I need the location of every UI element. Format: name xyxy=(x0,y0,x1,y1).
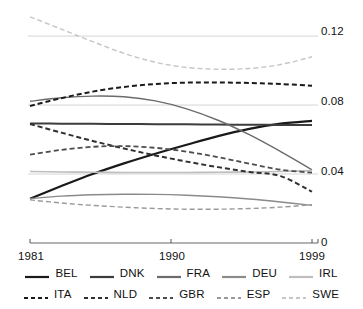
chart-legend: BELDNKFRADEUIRL ITANLDGBRESPSWE xyxy=(0,262,363,304)
data-series-group xyxy=(30,17,312,210)
legend-row-solid: BELDNKFRADEUIRL xyxy=(0,262,363,283)
legend-label: NLD xyxy=(114,288,138,300)
legend-label: ITA xyxy=(54,288,72,300)
x-tick-label-1999: 1999 xyxy=(291,250,333,262)
y-tick-label-0.04: 0.04 xyxy=(321,165,344,177)
legend-label: BEL xyxy=(55,267,77,279)
legend-swatch-deu-icon xyxy=(222,268,246,278)
legend-label: SWE xyxy=(312,288,339,300)
legend-swatch-esp-icon xyxy=(217,289,241,299)
legend-label: IRL xyxy=(319,267,338,279)
y-tick-label-0: 0 xyxy=(321,236,328,248)
legend-swatch-swe-icon xyxy=(282,289,306,299)
legend-item-gbr[interactable]: GBR xyxy=(149,288,205,300)
x-tick-label-1990: 1990 xyxy=(151,250,193,262)
legend-item-fra[interactable]: FRA xyxy=(157,267,211,279)
legend-item-swe[interactable]: SWE xyxy=(282,288,339,300)
y-tick-label-0.12: 0.12 xyxy=(321,25,344,37)
legend-label: FRA xyxy=(187,267,211,279)
axis-lines xyxy=(30,239,318,243)
x-tick-label-1981: 1981 xyxy=(10,250,52,262)
legend-swatch-nld-icon xyxy=(84,289,108,299)
series-line-BEL xyxy=(30,121,312,199)
legend-label: ESP xyxy=(247,288,271,300)
line-chart: 0.12 0.08 0.04 0 1981 1990 1999 BELDNKFR… xyxy=(0,0,363,309)
legend-swatch-fra-icon xyxy=(157,268,181,278)
legend-item-bel[interactable]: BEL xyxy=(25,267,77,279)
legend-item-dnk[interactable]: DNK xyxy=(90,267,145,279)
legend-item-deu[interactable]: DEU xyxy=(222,267,277,279)
legend-item-ita[interactable]: ITA xyxy=(24,288,72,300)
legend-swatch-ita-icon xyxy=(24,289,48,299)
legend-swatch-irl-icon xyxy=(289,268,313,278)
series-line-IRL xyxy=(30,171,312,173)
series-line-DNK xyxy=(30,124,312,126)
legend-label: DEU xyxy=(252,267,277,279)
legend-swatch-dnk-icon xyxy=(90,268,114,278)
y-tick-label-0.08: 0.08 xyxy=(321,95,344,107)
legend-row-dashed: ITANLDGBRESPSWE xyxy=(0,283,363,304)
legend-item-irl[interactable]: IRL xyxy=(289,267,338,279)
legend-label: GBR xyxy=(179,288,205,300)
legend-swatch-gbr-icon xyxy=(149,289,173,299)
legend-item-esp[interactable]: ESP xyxy=(217,288,271,300)
legend-item-nld[interactable]: NLD xyxy=(84,288,138,300)
legend-label: DNK xyxy=(120,267,145,279)
series-line-SWE xyxy=(30,17,312,69)
legend-swatch-bel-icon xyxy=(25,268,49,278)
series-line-ITA xyxy=(30,82,312,105)
